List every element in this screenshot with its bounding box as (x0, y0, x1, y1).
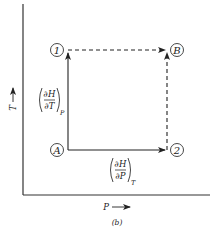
node-B: B (171, 44, 184, 57)
vertical-numerator: ∂H (44, 89, 56, 99)
vertical-subscript: P (59, 109, 65, 117)
y-axis-label: T (8, 88, 18, 111)
diagram-canvas: 1 B A 2 ∂H ∂T P ∂H ∂P T T P (b) (0, 0, 217, 234)
x-axis-label: P (102, 202, 130, 212)
derivative-label-vertical: ∂H ∂T P (40, 88, 66, 117)
node-A-label: A (52, 145, 60, 156)
node-A: A (51, 144, 64, 157)
horizontal-subscript: T (131, 179, 136, 187)
node-1-label: 1 (54, 45, 60, 56)
horizontal-numerator: ∂H (115, 159, 127, 169)
horizontal-denominator: ∂P (115, 171, 125, 181)
node-2: 2 (171, 144, 184, 157)
vertical-denominator: ∂T (44, 101, 55, 111)
derivative-label-horizontal: ∂H ∂P T (111, 158, 137, 187)
node-2-label: 2 (173, 145, 180, 156)
node-B-label: B (172, 45, 180, 56)
y-axis-label-text: T (8, 104, 18, 111)
x-axis-label-text: P (102, 202, 109, 212)
node-1: 1 (51, 44, 64, 57)
figure-caption: (b) (112, 218, 123, 227)
